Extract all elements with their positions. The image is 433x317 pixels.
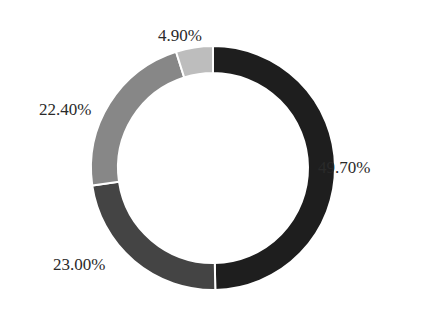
- label-slice-1: 49.70%: [318, 159, 370, 176]
- label-slice-3: 22.40%: [39, 101, 91, 118]
- label-slice-2: 23.00%: [53, 256, 105, 273]
- label-slice-4: 4.90%: [158, 27, 202, 44]
- donut-slice-2: [92, 182, 215, 290]
- donut-slice-3: [91, 52, 184, 186]
- donut-slice-1: [213, 46, 335, 290]
